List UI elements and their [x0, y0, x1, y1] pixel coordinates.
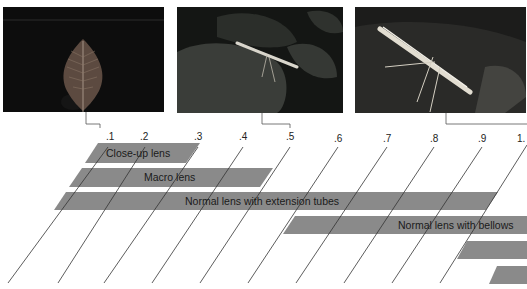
scale-label-1.0: 1. [517, 133, 525, 144]
scale-label-0.4: .4 [239, 131, 247, 142]
scale-label-0.2: .2 [140, 131, 148, 142]
magnification-diagram [0, 0, 527, 289]
scale-label-0.1: .1 [106, 131, 114, 142]
scale-label-0.6: .6 [334, 133, 342, 144]
label-bellows: Normal lens with bellows [398, 219, 514, 231]
bar-extra-2 [489, 266, 527, 284]
scale-label-0.5: .5 [286, 131, 294, 142]
bars [54, 143, 527, 284]
label-extension-tubes: Normal lens with extension tubes [185, 195, 339, 207]
label-macro-lens: Macro lens [144, 171, 195, 183]
scale-label-0.8: .8 [430, 133, 438, 144]
bar-extra-1 [457, 241, 527, 259]
scale-label-0.7: .7 [383, 133, 391, 144]
scale-label-0.3: .3 [194, 131, 202, 142]
label-close-up-lens: Close-up lens [106, 147, 170, 159]
callout-lines [86, 112, 527, 128]
scale-label-0.9: .9 [478, 133, 486, 144]
scale-lines [8, 145, 527, 283]
